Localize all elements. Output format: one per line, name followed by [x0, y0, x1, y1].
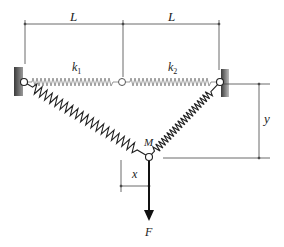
- spring-k2: [126, 78, 216, 86]
- force-arrow: [144, 161, 154, 221]
- spring-k1: [27, 78, 118, 86]
- diagram-canvas: [0, 0, 284, 247]
- label-L-left: L: [70, 10, 77, 23]
- mass-pivot: [146, 154, 153, 161]
- right-pivot: [217, 79, 224, 86]
- label-F: F: [145, 226, 152, 238]
- label-y: y: [264, 112, 270, 125]
- label-k1-sub: 1: [77, 67, 81, 76]
- dimension-L: [24, 20, 220, 77]
- left-pivot: [21, 79, 28, 86]
- middle-pivot: [119, 79, 126, 86]
- spring-right-diagonal: [148, 82, 220, 158]
- spring-left-diagonal: [24, 79, 148, 159]
- label-M: M: [144, 137, 153, 148]
- label-k2-sub: 2: [173, 67, 177, 76]
- label-k1: k1: [72, 61, 81, 76]
- label-k2: k2: [168, 61, 177, 76]
- label-L-right: L: [168, 10, 175, 23]
- label-x: x: [132, 168, 137, 180]
